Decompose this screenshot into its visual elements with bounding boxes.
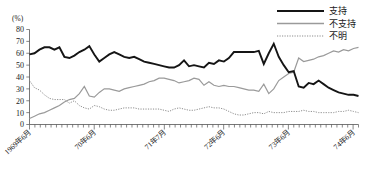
x-axis-labels: 1969年6月70年6月71年7月72年6月73年6月74年6月 <box>2 127 357 156</box>
legend-label: 支持 <box>329 5 347 16</box>
y-tick-label: 60 <box>16 49 24 58</box>
legend-label: 不明 <box>329 31 347 41</box>
y-tick-label: 70 <box>16 37 24 46</box>
x-tick-label: 72年6月 <box>202 127 227 151</box>
legend-item-unknown: 不明 <box>277 31 347 41</box>
legend: 支持不支持不明 <box>277 5 356 41</box>
x-tick-label: 70年6月 <box>72 127 97 151</box>
x-axis <box>30 125 359 130</box>
approval-rating-chart: (%) 80706050403020100 1969年6月70年6月71年7月7… <box>0 0 370 169</box>
y-tick-label: 20 <box>16 97 24 106</box>
y-tick-label: 50 <box>16 61 24 70</box>
y-axis: 80706050403020100 <box>16 25 30 129</box>
y-axis-unit-label: (%) <box>12 14 24 23</box>
y-tick-label: 80 <box>16 25 24 34</box>
x-tick-label: 74年6月 <box>331 127 356 151</box>
y-tick-label: 10 <box>16 109 24 118</box>
series-lines <box>30 44 359 119</box>
series-line-support <box>30 44 359 96</box>
legend-item-oppose: 不支持 <box>277 18 356 29</box>
x-tick-label: 1969年6月 <box>2 127 33 156</box>
legend-label: 不支持 <box>329 18 356 29</box>
axis-frame <box>30 30 359 125</box>
y-tick-label: 30 <box>16 85 24 94</box>
series-line-unknown <box>30 81 359 115</box>
x-tick-label: 71年7月 <box>142 127 167 151</box>
y-tick-label: 0 <box>20 120 24 129</box>
x-tick-label: 73年6月 <box>266 127 291 151</box>
y-tick-label: 40 <box>16 73 24 82</box>
legend-item-support: 支持 <box>277 5 347 16</box>
chart-svg: (%) 80706050403020100 1969年6月70年6月71年7月7… <box>0 0 370 169</box>
